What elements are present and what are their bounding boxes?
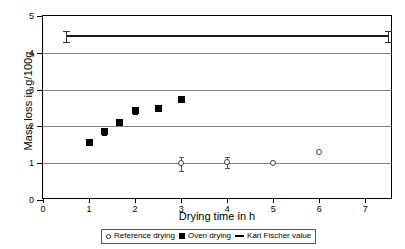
- karl-fischer-error-bar: [66, 31, 67, 42]
- legend-item: Oven drying: [179, 231, 231, 241]
- data-point-reference-drying: [224, 159, 230, 165]
- y-tick-label: 3: [29, 86, 34, 95]
- y-tick-mark: [37, 16, 43, 17]
- karl-fischer-error-bar: [388, 31, 389, 42]
- legend-label: Oven drying: [188, 231, 231, 241]
- karl-fischer-error-cap: [63, 42, 70, 43]
- gridline: [43, 53, 391, 54]
- x-tick-mark: [227, 198, 228, 203]
- y-tick-mark: [37, 163, 43, 164]
- x-tick-mark: [43, 198, 44, 203]
- y-axis-title: Mass loss in g/100g: [22, 21, 34, 181]
- data-point-reference-drying: [316, 149, 322, 155]
- gridline: [43, 126, 391, 127]
- y-tick-label: 1: [29, 159, 34, 168]
- y-tick-label: 5: [29, 12, 34, 21]
- karl-fischer-error-cap: [385, 42, 392, 43]
- error-bar-cap: [179, 171, 184, 172]
- error-bar-cap: [225, 168, 230, 169]
- y-tick-mark: [37, 90, 43, 91]
- chart-figure: Mass loss in g/100g 012345 01234567 Dryi…: [0, 0, 405, 249]
- x-tick-mark: [365, 198, 366, 203]
- y-tick-mark: [37, 126, 43, 127]
- gridline: [43, 90, 391, 91]
- x-tick-mark: [89, 198, 90, 203]
- legend-item: Reference drying: [106, 231, 175, 241]
- data-point-reference-drying: [270, 160, 276, 166]
- chart-legend: Reference dryingOven dryingKarl Fischer …: [101, 229, 316, 244]
- x-tick-mark: [273, 198, 274, 203]
- data-point-reference-drying: [178, 160, 184, 166]
- x-tick-mark: [181, 198, 182, 203]
- error-bar-cap: [133, 114, 138, 115]
- data-point-oven-drying: [86, 139, 93, 146]
- y-tick-label: 2: [29, 122, 34, 131]
- x-tick-mark: [319, 198, 320, 203]
- x-axis-title: Drying time in h: [42, 210, 392, 222]
- y-tick-label: 0: [29, 196, 34, 205]
- data-point-oven-drying: [132, 107, 139, 114]
- data-point-oven-drying: [101, 128, 108, 135]
- plot-area: 012345 01234567: [42, 15, 392, 199]
- legend-marker-line-icon: [235, 235, 244, 237]
- karl-fischer-error-cap: [63, 31, 70, 32]
- karl-fischer-line: [66, 35, 388, 37]
- y-tick-label: 4: [29, 49, 34, 58]
- x-tick-mark: [135, 198, 136, 203]
- data-point-oven-drying: [178, 96, 185, 103]
- legend-item: Karl Fischer value: [235, 231, 311, 241]
- y-tick-mark: [37, 53, 43, 54]
- karl-fischer-error-cap: [385, 31, 392, 32]
- legend-label: Karl Fischer value: [247, 231, 311, 241]
- error-bar-cap: [179, 157, 184, 158]
- legend-label: Reference drying: [114, 231, 175, 241]
- error-bar-cap: [225, 157, 230, 158]
- legend-marker-filled-square-icon: [179, 233, 185, 239]
- legend-marker-open-circle-icon: [106, 234, 111, 239]
- data-point-oven-drying: [116, 119, 123, 126]
- data-point-oven-drying: [155, 105, 162, 112]
- gridline: [43, 163, 391, 164]
